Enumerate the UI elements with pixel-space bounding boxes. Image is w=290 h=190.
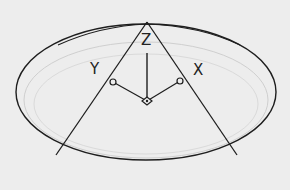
y-axis-line — [113, 82, 147, 101]
cone-left-generator[interactable] — [56, 22, 147, 155]
cone-right-generator[interactable] — [147, 22, 237, 155]
x-axis-marker-icon — [177, 78, 183, 84]
x-axis-label: X — [193, 63, 203, 78]
y-axis-label: Y — [90, 62, 99, 77]
cad-viewport[interactable] — [0, 0, 290, 190]
z-axis-label: Z — [141, 33, 151, 48]
ucs-origin-dot — [146, 100, 148, 102]
x-axis-line — [147, 81, 180, 101]
y-axis-marker-icon — [110, 79, 116, 85]
